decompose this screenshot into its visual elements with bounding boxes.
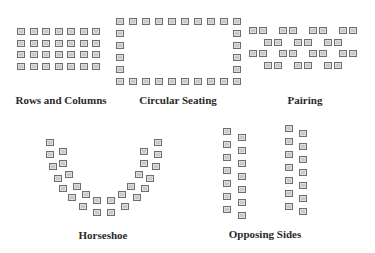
desk-seat [299,143,307,150]
desk-seat [299,130,307,137]
desk-seat [299,195,307,202]
desk-seat [223,180,231,187]
desk-seat [238,212,246,219]
desk-seat [285,164,293,171]
desk-seat [223,167,231,174]
desk-seat [223,206,231,213]
desk-seat [238,186,246,193]
desk-seat [223,154,231,161]
desk-seat [238,173,246,180]
desk-seat [285,125,293,132]
label-opposing-sides: Opposing Sides [229,228,301,240]
desk-seat [238,160,246,167]
desk-seat [299,208,307,215]
desk-seat [299,182,307,189]
desk-seat [299,169,307,176]
desk-seat [285,190,293,197]
desk-seat [238,199,246,206]
desk-seat [223,141,231,148]
desk-seat [223,193,231,200]
desk-seat [285,151,293,158]
desk-seat [285,138,293,145]
desk-seat [285,203,293,210]
desk-seat [285,177,293,184]
desk-seat [223,128,231,135]
desk-seat [238,134,246,141]
desk-seat [238,147,246,154]
desk-seat [299,156,307,163]
arrangement-opposing-sides [0,0,375,253]
